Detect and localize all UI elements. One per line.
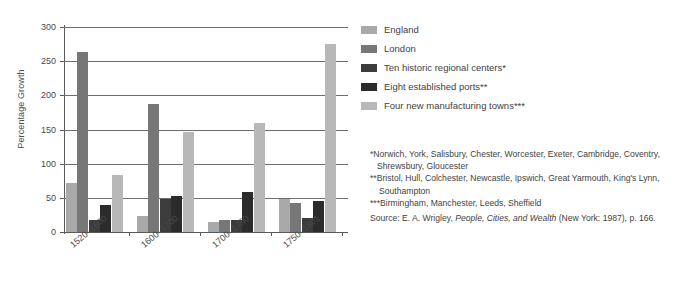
footnote-established-ports-line1: **Bristol, Hull, Colchester, Newcastle, …: [370, 173, 636, 183]
bar: [137, 216, 148, 232]
bar: [325, 44, 336, 232]
y-tick-label-150: 150: [28, 125, 56, 135]
footnote-manufacturing-towns: ***Birmingham, Manchester, Leeds, Sheffi…: [370, 197, 688, 209]
chart-legend: EnglandLondonTen historic regional cente…: [361, 20, 611, 115]
bar: [183, 132, 194, 232]
chart-area: Percentage Growth 050100150200250300 152…: [0, 0, 352, 291]
source-prefix: Source: E. A. Wrigley,: [370, 213, 455, 223]
legend-item-label: England: [384, 24, 419, 35]
y-axis-ticks: 050100150200250300: [0, 0, 64, 291]
y-tick-label-300: 300: [28, 22, 56, 32]
legend-item-label: London: [384, 43, 416, 54]
bar: [112, 175, 123, 232]
legend-swatch-icon: [361, 83, 377, 91]
legend-swatch-icon: [361, 64, 377, 72]
legend-item-label: Eight established ports**: [384, 81, 488, 92]
legend-item-label: Ten historic regional centers*: [384, 62, 506, 73]
legend-item[interactable]: Ten historic regional centers*: [361, 58, 611, 77]
legend-item[interactable]: Four new manufacturing towns***: [361, 96, 611, 115]
bar-chart-figure: Percentage Growth 050100150200250300 152…: [0, 0, 692, 291]
bar: [208, 222, 219, 232]
bar: [148, 104, 159, 232]
plot-region: [64, 27, 348, 232]
bar-group: [66, 27, 124, 232]
y-tick-label-100: 100: [28, 159, 56, 169]
legend-swatch-icon: [361, 26, 377, 34]
bar: [66, 183, 77, 232]
footnotes-block: *Norwich, York, Salisbury, Chester, Worc…: [370, 148, 688, 224]
bar: [254, 123, 265, 232]
footnote-established-ports: **Bristol, Hull, Colchester, Newcastle, …: [370, 172, 688, 196]
x-tick-mark: [129, 232, 130, 236]
source-suffix: (New York: 1987), p. 166.: [556, 213, 655, 223]
bar: [77, 52, 88, 232]
y-tick-label-250: 250: [28, 56, 56, 66]
bar-group: [279, 27, 337, 232]
legend-swatch-icon: [361, 102, 377, 110]
x-tick-mark: [271, 232, 272, 236]
y-tick-label-50: 50: [28, 193, 56, 203]
footnote-regional-centers: *Norwich, York, Salisbury, Chester, Worc…: [370, 148, 688, 172]
source-citation: Source: E. A. Wrigley, People, Cities, a…: [370, 212, 688, 224]
bar-group: [137, 27, 195, 232]
bar: [279, 199, 290, 232]
y-tick-label-0: 0: [28, 227, 56, 237]
footnote-regional-centers-line1: *Norwich, York, Salisbury, Chester, Worc…: [370, 149, 621, 159]
legend-item[interactable]: London: [361, 39, 611, 58]
x-tick-mark: [342, 232, 343, 236]
legend-item[interactable]: Eight established ports**: [361, 77, 611, 96]
legend-swatch-icon: [361, 45, 377, 53]
x-tick-mark: [200, 232, 201, 236]
source-title: People, Cities, and Wealth: [455, 213, 556, 223]
legend-item[interactable]: England: [361, 20, 611, 39]
y-tick-label-200: 200: [28, 90, 56, 100]
legend-item-label: Four new manufacturing towns***: [384, 100, 525, 111]
bar-group: [208, 27, 266, 232]
